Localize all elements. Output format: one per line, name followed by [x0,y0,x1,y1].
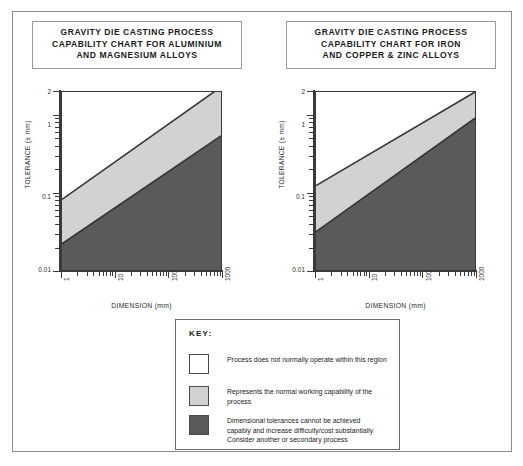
x-tick-minor [401,272,402,276]
x-tick-minor [99,272,100,276]
y-tick-minor [309,234,313,235]
y-tick-minor [55,248,59,249]
x-tick-minor [217,272,218,276]
x-tick-minor [331,272,332,276]
y-tick-minor [309,122,313,123]
x-tick-minor [87,272,88,276]
x-tick-minor [471,272,472,276]
y-tick-minor [55,210,59,211]
x-tick-major [315,272,316,278]
y-tick-minor [309,216,313,217]
plot-svg-left [62,92,221,270]
y-tick-label: 0.1 [296,193,305,200]
y-tick-label: 0.1 [42,193,51,200]
y-tick-major [53,91,59,92]
key-text-line: Represents the normal working capability… [227,387,407,397]
y-tick-minor [55,234,59,235]
x-tick-minor [214,272,215,276]
y-tick-minor [55,132,59,133]
y-tick-labels-right: 2 1 0.1 0.01 [268,11,305,311]
y-tick-minor [309,132,313,133]
x-tick-major [369,272,370,278]
x-tick-minor [103,272,104,276]
plot-svg-right [316,92,475,270]
y-tick-minor [55,127,59,128]
key-heading: KEY: [189,329,212,338]
x-tick-minor [439,272,440,276]
x-tick-minor [210,272,211,276]
key-swatch-light-grey-icon [189,386,209,406]
x-tick-minor [112,272,113,276]
x-tick-minor [385,272,386,276]
x-tick-minor [106,272,107,276]
key-item-text: Process does not normally operate within… [227,355,407,365]
y-tick-minor [55,205,59,206]
y-tick-minor [309,118,313,119]
x-axis-title-right: DIMENSION (mm) [315,302,476,309]
x-tick-minor [353,272,354,276]
x-tick-minor [77,272,78,276]
key-box: KEY: Process does not normally operate w… [175,319,400,450]
x-tick-minor [420,272,421,276]
y-tick-minor [309,127,313,128]
x-tick-major [422,272,423,278]
y-tick-minor [55,216,59,217]
y-tick-minor [55,138,59,139]
x-tick-minor [131,272,132,276]
x-tick-minor [347,272,348,276]
x-tick-label: 1000 [224,267,231,281]
x-tick-minor [160,272,161,276]
y-tick-labels-left: 2 1 0.1 0.01 [14,11,51,311]
y-tick-major [307,115,313,116]
y-tick-label: 2 [47,88,51,95]
x-tick-minor [110,272,111,276]
x-tick-minor [140,272,141,276]
chart-panel-iron-copper-zinc: GRAVITY DIE CASTING PROCESS CAPABILITY C… [268,11,513,311]
y-tick-minor [309,248,313,249]
y-tick-major [307,193,313,194]
x-tick-minor [474,272,475,276]
key-text-line: Process does not normally operate within… [227,355,407,365]
x-tick-minor [366,272,367,276]
x-tick-major [168,272,169,278]
x-tick-minor [448,272,449,276]
key-swatch-dark-grey-icon [189,415,209,435]
plot-area-right: 2 1 0.1 0.01 TOLERANCE (± mm) DIMENSION … [268,11,513,311]
y-axis-title-left: TOLERANCE (± mm) [24,90,31,220]
key-swatch-white-icon [189,354,209,374]
y-tick-minor [309,138,313,139]
x-tick-minor [464,272,465,276]
y-tick-label: 0.01 [292,266,305,273]
x-tick-minor [152,272,153,276]
x-tick-minor [364,272,365,276]
y-tick-minor [309,224,313,225]
y-tick-minor [309,210,313,211]
key-text-line: Dimensional tolerances cannot be achieve… [227,416,407,426]
x-tick-label: 1 [317,277,324,281]
plot-area-left: 2 1 0.1 0.01 TOLERANCE (± mm) DIMENSION … [14,11,259,311]
x-tick-minor [414,272,415,276]
x-tick-minor [185,272,186,276]
x-tick-minor [460,272,461,276]
y-tick-minor [55,156,59,157]
y-tick-major [53,115,59,116]
y-tick-minor [55,118,59,119]
x-tick-minor [360,272,361,276]
y-tick-minor [309,200,313,201]
x-tick-major [476,272,477,278]
key-text-line: capably and increase difficulty/cost sub… [227,426,407,436]
x-tick-minor [468,272,469,276]
y-axis-title-right: TOLERANCE (± mm) [278,90,285,220]
x-tick-minor [147,272,148,276]
x-axis-spine-right [314,270,477,272]
y-tick-label: 0.01 [38,266,51,273]
y-tick-minor [55,122,59,123]
y-tick-minor [309,205,313,206]
key-text-line: Consider another or secondary process [227,435,407,445]
x-tick-minor [201,272,202,276]
x-tick-minor [166,272,167,276]
y-tick-label: 1 [301,121,305,128]
y-tick-label: 2 [301,88,305,95]
y-axis-spine-left [59,90,61,272]
x-tick-major [222,272,223,278]
